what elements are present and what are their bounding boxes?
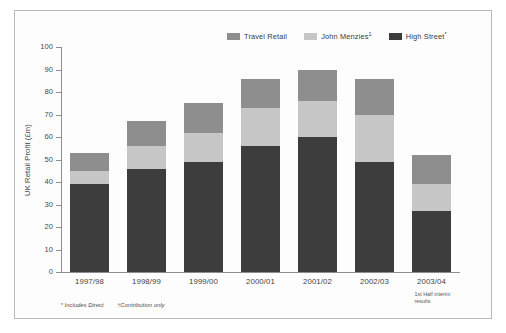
bar-segment: [184, 133, 223, 162]
legend-item-john-menzies: John Menzies1: [304, 31, 372, 41]
bar-segment: [298, 101, 337, 137]
bar-segment: [412, 211, 451, 272]
legend-swatch-john-menzies: [304, 33, 317, 40]
bar-segment: [355, 79, 394, 115]
y-tick-label-40: 40: [45, 177, 53, 186]
bar-segment: [70, 184, 109, 272]
y-tick-90: 90: [56, 70, 61, 71]
bar-segment: [184, 103, 223, 132]
bar-segment: [241, 108, 280, 146]
legend-swatch-travel-retail: [227, 33, 240, 40]
legend-sup-high-street: *: [444, 31, 446, 37]
y-tick-label-80: 80: [45, 87, 53, 96]
y-tick-label-50: 50: [45, 155, 53, 164]
legend-sup-john-menzies: 1: [369, 31, 372, 37]
bar-group: [127, 121, 166, 272]
y-axis-line: [61, 47, 62, 273]
bar-group: [298, 70, 337, 273]
y-tick-label-100: 100: [40, 42, 53, 51]
legend-item-travel-retail: Travel Retail: [227, 32, 287, 41]
legend-label-john-menzies: John Menzies1: [321, 31, 372, 41]
bar-segment: [298, 137, 337, 272]
bar-segment: [184, 162, 223, 272]
bar-segment: [241, 79, 280, 108]
chart-figure: Travel Retail John Menzies1 High Street*…: [14, 10, 492, 319]
y-tick-0: 0: [56, 272, 61, 273]
y-tick-label-90: 90: [45, 65, 53, 74]
y-tick-label-20: 20: [45, 222, 53, 231]
y-tick-80: 80: [56, 92, 61, 93]
x-axis-line: [61, 272, 460, 273]
legend-label-high-street: High Street*: [406, 31, 447, 41]
bar-segment: [355, 115, 394, 162]
bar-segment: [412, 184, 451, 211]
bar-group: [355, 79, 394, 273]
bar-segment: [298, 70, 337, 102]
x-axis-label: 2003/04: [392, 277, 472, 286]
bar-segment: [241, 146, 280, 272]
bar-segment: [127, 169, 166, 273]
bar-group: [70, 153, 109, 272]
bar-group: [241, 79, 280, 273]
bar-segment: [355, 162, 394, 272]
bar-segment: [412, 155, 451, 184]
y-tick-20: 20: [56, 227, 61, 228]
bar-segment: [127, 121, 166, 146]
y-tick-label-60: 60: [45, 132, 53, 141]
y-tick-label-0: 0: [49, 267, 53, 276]
legend-item-high-street: High Street*: [389, 31, 447, 41]
footnote-contribution-only: †Contribution only: [118, 302, 165, 308]
y-tick-label-10: 10: [45, 245, 53, 254]
footnote-includes-direct: * Includes Direct: [61, 302, 104, 308]
legend-swatch-high-street: [389, 33, 402, 40]
plot-area: 1009080706050403020100: [61, 47, 460, 273]
legend-label-travel-retail: Travel Retail: [244, 32, 287, 41]
y-axis-title: UK Retail Profit (£m): [23, 47, 35, 273]
bar-segment: [127, 146, 166, 169]
chart-footnotes: * Includes Direct †Contribution only: [61, 302, 165, 308]
y-tick-label-30: 30: [45, 200, 53, 209]
y-tick-70: 70: [56, 115, 61, 116]
y-tick-50: 50: [56, 160, 61, 161]
chart-legend: Travel Retail John Menzies1 High Street*: [227, 31, 447, 41]
y-tick-30: 30: [56, 205, 61, 206]
x-axis-sublabel: 1st Half interim results: [415, 291, 461, 305]
bar-group: [412, 155, 451, 272]
y-tick-10: 10: [56, 250, 61, 251]
y-tick-40: 40: [56, 182, 61, 183]
y-tick-label-70: 70: [45, 110, 53, 119]
bar-group: [184, 103, 223, 272]
bar-segment: [70, 153, 109, 171]
y-tick-60: 60: [56, 137, 61, 138]
y-tick-100: 100: [56, 47, 61, 48]
bar-segment: [70, 171, 109, 185]
